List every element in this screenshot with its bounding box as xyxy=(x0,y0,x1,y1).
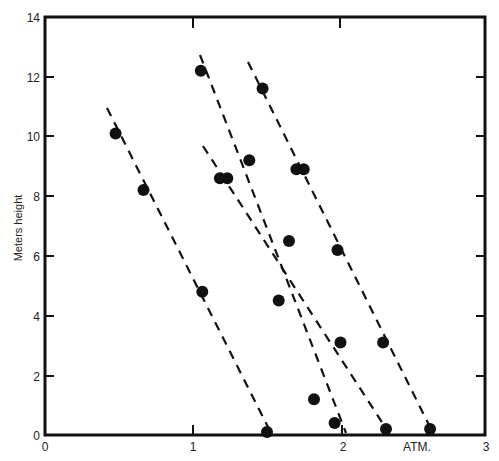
data-point xyxy=(298,163,310,175)
chart: 14 12 10 8 6 4 2 0 0 1 2 3 ATM. Meters h… xyxy=(0,0,499,461)
x-axis-title: ATM. xyxy=(403,440,431,454)
data-point xyxy=(335,336,347,348)
data-point xyxy=(243,154,255,166)
data-points xyxy=(110,65,437,438)
data-point xyxy=(195,65,207,77)
x-tick-label: 3 xyxy=(483,440,490,454)
x-axis-labels: 0 1 2 3 ATM. xyxy=(42,440,490,454)
y-tick-label: 0 xyxy=(33,429,40,443)
fit-line-3 xyxy=(203,146,389,433)
data-point xyxy=(424,423,436,435)
y-tick-label: 8 xyxy=(33,190,40,204)
data-point xyxy=(377,336,389,348)
y-tick-label: 10 xyxy=(27,130,41,144)
data-point xyxy=(257,83,269,95)
x-tick-label: 1 xyxy=(190,440,197,454)
x-tick-label: 2 xyxy=(340,440,347,454)
data-point xyxy=(329,417,341,429)
y-tick-label: 14 xyxy=(27,11,41,25)
data-point xyxy=(138,184,150,196)
data-point xyxy=(332,244,344,256)
data-point xyxy=(308,393,320,405)
x-axis-ticks xyxy=(193,17,342,435)
y-axis-title: Meters height xyxy=(12,195,24,262)
data-point xyxy=(380,423,392,435)
y-tick-label: 6 xyxy=(33,250,40,264)
x-tick-label: 0 xyxy=(42,440,49,454)
data-point xyxy=(261,426,273,438)
y-tick-label: 4 xyxy=(33,310,40,324)
y-axis-labels: 14 12 10 8 6 4 2 0 xyxy=(27,11,41,443)
fit-lines xyxy=(107,55,433,433)
y-tick-label: 12 xyxy=(27,71,41,85)
data-point xyxy=(110,127,122,139)
y-tick-label: 2 xyxy=(33,370,40,384)
data-point xyxy=(221,172,233,184)
data-point xyxy=(283,235,295,247)
data-point xyxy=(196,286,208,298)
data-point xyxy=(273,295,285,307)
